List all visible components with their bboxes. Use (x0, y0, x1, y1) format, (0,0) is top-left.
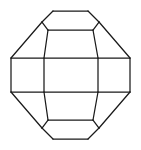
lower-left-long-diagonal (11, 92, 42, 128)
upper-left-inner-post (44, 30, 48, 58)
lower-left-inner-post (44, 92, 48, 120)
top-left-bevel (42, 11, 53, 22)
lower-right-short-bevel (93, 120, 99, 128)
top-right-bevel (88, 11, 99, 22)
upper-left-short-bevel (42, 22, 48, 30)
lower-right-long-diagonal (99, 92, 130, 128)
bottom-right-bevel (88, 128, 99, 139)
polyhedron-figure: Polyhedron Wireframe (0, 0, 141, 150)
upper-right-inner-post (93, 30, 98, 58)
lower-right-inner-post (93, 92, 98, 120)
bottom-left-bevel (42, 128, 53, 139)
upper-right-long-diagonal (99, 22, 130, 58)
edge-group (11, 11, 130, 139)
upper-right-short-bevel (93, 22, 99, 30)
upper-left-long-diagonal (11, 22, 42, 58)
polyhedron-wireframe-svg: Polyhedron Wireframe (0, 0, 141, 150)
lower-left-short-bevel (42, 120, 48, 128)
